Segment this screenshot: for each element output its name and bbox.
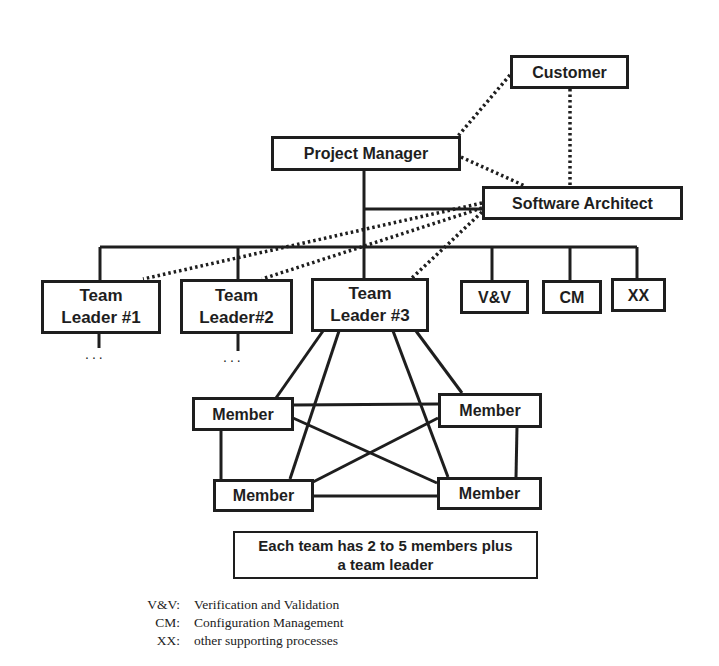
member-tr-br-line: [516, 427, 517, 477]
member-top-right-box: Member: [438, 393, 542, 428]
team-leader-2-ellipsis: ...: [223, 349, 244, 365]
legend-row-vv: V&V: Verification and Validation: [130, 596, 344, 614]
ellipsis-text: ...: [85, 346, 106, 362]
project-manager-box: Project Manager: [271, 136, 461, 171]
legend: V&V: Verification and Validation CM: Con…: [130, 596, 344, 650]
team-leader-1-line2: Leader #1: [61, 307, 140, 329]
team-leader-1-box: Team Leader #1: [41, 280, 161, 334]
tl3-member-tr-line: [416, 331, 462, 393]
member-top-left-box: Member: [192, 397, 294, 431]
team-leader-3-line1: Team: [348, 283, 391, 305]
member-label: Member: [459, 400, 520, 421]
member-tr-bl-line: [313, 418, 438, 482]
member-bottom-right-box: Member: [437, 477, 542, 510]
xx-label: XX: [628, 285, 649, 306]
software-architect-box: Software Architect: [482, 186, 683, 220]
note-line1: Each team has 2 to 5 members plus: [258, 536, 512, 555]
xx-box: XX: [611, 278, 666, 312]
team-leader-2-box: Team Leader#2: [180, 279, 293, 334]
customer-box: Customer: [510, 55, 629, 89]
org-chart-diagram: Customer Project Manager Software Archit…: [0, 0, 719, 666]
software-architect-label: Software Architect: [512, 193, 653, 214]
note-line2: a team leader: [338, 555, 434, 574]
vv-label: V&V: [478, 287, 511, 308]
team-leader-3-box: Team Leader #3: [311, 278, 429, 332]
customer-pm-dotted: [458, 75, 510, 136]
legend-row-xx: XX: other supporting processes: [130, 632, 344, 650]
team-leader-2-line1: Team: [215, 285, 258, 307]
cm-label: CM: [560, 287, 585, 308]
architect-tl3-dotted: [412, 212, 482, 278]
legend-value: Verification and Validation: [194, 596, 339, 614]
team-leader-3-line2: Leader #3: [330, 305, 409, 327]
cm-box: CM: [542, 280, 602, 314]
member-label: Member: [459, 483, 520, 504]
architect-tl1-dotted: [143, 203, 482, 279]
legend-value: Configuration Management: [194, 614, 344, 632]
vv-box: V&V: [460, 280, 529, 314]
legend-key: XX:: [130, 632, 194, 650]
team-size-note-box: Each team has 2 to 5 members plus a team…: [233, 531, 538, 579]
customer-label: Customer: [532, 62, 607, 83]
legend-key: CM:: [130, 614, 194, 632]
pm-architect-dotted: [461, 157, 525, 186]
project-manager-label: Project Manager: [304, 143, 428, 164]
member-tl-br-line: [293, 418, 437, 483]
member-label: Member: [233, 485, 294, 506]
member-label: Member: [212, 404, 273, 425]
tl3-member-tl-line: [276, 331, 323, 398]
legend-row-cm: CM: Configuration Management: [130, 614, 344, 632]
team-leader-1-line1: Team: [79, 285, 122, 307]
member-bottom-left-box: Member: [213, 479, 314, 512]
team-leader-2-line2: Leader#2: [199, 307, 274, 329]
member-tl-tr-line: [293, 404, 438, 405]
team-leader-1-ellipsis: ...: [85, 346, 106, 362]
legend-key: V&V:: [130, 596, 194, 614]
legend-value: other supporting processes: [194, 632, 338, 650]
ellipsis-text: ...: [223, 349, 244, 365]
